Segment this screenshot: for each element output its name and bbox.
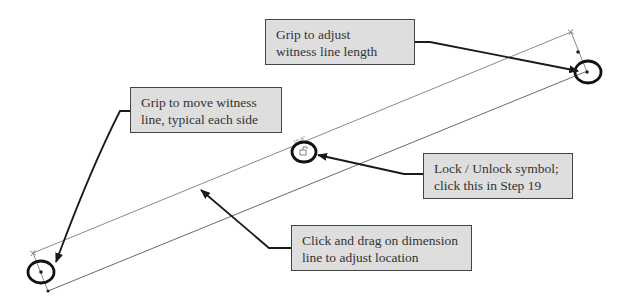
left-tick-icon — [30, 250, 36, 256]
left-grip-dot[interactable] — [39, 270, 43, 274]
callout-text-line: Click and drag on dimension — [302, 232, 461, 249]
lock-unlock-icon[interactable] — [300, 147, 307, 155]
callout-move-witness: Grip to move witness line, typical each … — [130, 87, 282, 133]
callout-witness-length: Grip to adjust witness line length — [265, 19, 415, 65]
lock-grip-circle[interactable] — [292, 142, 316, 162]
leader-lock-unlock — [318, 155, 423, 174]
callout-text-line: Grip to move witness — [141, 94, 271, 111]
callout-text-line: Lock / Unlock symbol; — [434, 160, 562, 177]
right-mid-dot — [576, 50, 580, 54]
callout-text-line: click this in Step 19 — [434, 177, 562, 194]
right-grip-dot[interactable] — [585, 70, 589, 74]
callout-text-line: witness line length — [276, 43, 404, 60]
callout-lock-unlock: Lock / Unlock symbol; click this in Step… — [423, 153, 573, 199]
leader-drag-dimension — [201, 190, 291, 248]
callout-drag-dimension: Click and drag on dimension line to adju… — [291, 225, 472, 271]
callout-text-line: line, typical each side — [141, 111, 271, 128]
callout-text-line: Grip to adjust — [276, 26, 404, 43]
left-end-dot — [46, 289, 49, 292]
leader-witness-length — [414, 42, 578, 71]
callout-text-line: line to adjust location — [302, 249, 461, 266]
right-tick-icon — [568, 29, 574, 35]
